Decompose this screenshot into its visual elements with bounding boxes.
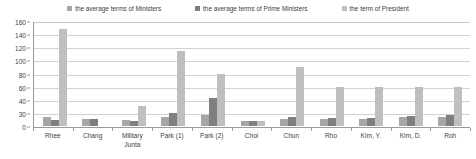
y-axis-tick-mark <box>27 74 30 75</box>
x-axis-label: Chun <box>271 132 311 158</box>
y-axis-tick-label: 40 <box>19 97 26 104</box>
bar <box>138 106 146 126</box>
legend-label: the term of President <box>350 5 409 12</box>
bar <box>90 119 98 126</box>
legend-item: the term of President <box>342 5 409 12</box>
bar <box>320 119 328 126</box>
bar <box>59 29 67 126</box>
bar <box>454 87 462 126</box>
x-axis-tick-mark <box>192 128 193 131</box>
x-axis-label: Park (1) <box>152 132 192 158</box>
bar <box>249 121 257 126</box>
bar <box>169 113 177 126</box>
bar <box>51 120 59 126</box>
bar-group <box>272 22 312 126</box>
x-axis-tick-mark <box>152 128 153 131</box>
bar <box>177 51 185 126</box>
bar <box>296 67 304 126</box>
bar-group <box>391 22 431 126</box>
bar <box>288 117 296 126</box>
bar <box>328 118 336 126</box>
x-axis-tick-mark <box>351 128 352 131</box>
bar <box>415 87 423 126</box>
bar <box>130 121 138 126</box>
x-axis-tick-mark <box>271 128 272 131</box>
x-axis-label: Park (2) <box>192 132 232 158</box>
bar <box>399 117 407 126</box>
bar-group <box>154 22 194 126</box>
y-axis-tick-label: 60 <box>19 84 26 91</box>
bar <box>280 119 288 126</box>
x-axis-labels: RheeChangMilitary JuntaPark (1)Park (2)C… <box>33 132 470 158</box>
bar <box>122 120 130 126</box>
y-axis-tick-label: 100 <box>15 58 26 65</box>
y-axis-tick-mark <box>27 61 30 62</box>
x-axis-tick-mark <box>430 128 431 131</box>
bar <box>209 98 217 126</box>
bar-group <box>233 22 273 126</box>
y-axis-tick-mark <box>27 48 30 49</box>
bar <box>241 121 249 126</box>
x-axis-label: Rho <box>311 132 351 158</box>
bar <box>43 117 51 126</box>
x-axis-tick-mark <box>112 128 113 131</box>
x-axis-label: Kim, Y. <box>351 132 391 158</box>
bar-groups <box>35 22 470 126</box>
y-axis-tick-label: 80 <box>19 71 26 78</box>
y-axis-tick-mark <box>27 113 30 114</box>
x-axis-tick-mark <box>232 128 233 131</box>
bar <box>375 87 383 126</box>
bar <box>438 117 446 126</box>
bar-group <box>114 22 154 126</box>
bar <box>82 119 90 126</box>
x-axis-tick-mark <box>470 128 471 131</box>
bar <box>407 116 415 126</box>
bar <box>446 115 454 126</box>
legend-item: the average terms of Ministers <box>67 5 161 12</box>
legend-label: the average terms of Ministers <box>75 5 161 12</box>
plot-area <box>33 22 470 128</box>
bar <box>201 115 209 126</box>
bar <box>367 118 375 126</box>
bar <box>359 119 367 126</box>
y-axis-tick-mark <box>27 100 30 101</box>
x-axis-tick-mark <box>311 128 312 131</box>
x-axis-label: Kim, D. <box>391 132 431 158</box>
x-axis-tick-mark <box>33 128 34 131</box>
y-axis-tick-label: 30 <box>19 110 26 117</box>
bar-group <box>75 22 115 126</box>
legend-swatch-icon <box>67 6 72 11</box>
bar-group <box>430 22 470 126</box>
bar <box>336 87 344 126</box>
x-axis-label: Rhee <box>33 132 73 158</box>
x-axis-label: Military Junta <box>112 132 152 158</box>
y-axis-tick-label: 160 <box>15 19 26 26</box>
legend-swatch-icon <box>342 6 347 11</box>
bar-group <box>193 22 233 126</box>
x-axis-tick-mark <box>73 128 74 131</box>
bar-group <box>351 22 391 126</box>
bar-group <box>35 22 75 126</box>
bar <box>257 121 265 126</box>
x-axis-label: Chang <box>73 132 113 158</box>
x-axis-label: Choi <box>232 132 272 158</box>
legend-swatch-icon <box>195 6 200 11</box>
chart-legend: the average terms of Ministersthe averag… <box>0 2 476 15</box>
y-axis-tick-label: 120 <box>15 45 26 52</box>
y-axis-tick-label: 0 <box>22 124 26 131</box>
y-axis-tick-mark <box>27 35 30 36</box>
legend-item: the average terms of Prime Ministers <box>195 5 307 12</box>
bar <box>161 117 169 126</box>
x-axis-label: Roh <box>430 132 470 158</box>
y-axis-tick-label: 140 <box>15 32 26 39</box>
y-axis-tick-mark <box>27 127 30 128</box>
bar-group <box>312 22 352 126</box>
x-axis-tick-mark <box>391 128 392 131</box>
y-axis-tick-mark <box>27 22 30 23</box>
y-axis: 160140120100806040300 <box>0 22 30 128</box>
bar-chart: the average terms of Ministersthe averag… <box>0 0 476 159</box>
legend-label: the average terms of Prime Ministers <box>203 5 307 12</box>
y-axis-tick-mark <box>27 87 30 88</box>
bar <box>217 74 225 127</box>
